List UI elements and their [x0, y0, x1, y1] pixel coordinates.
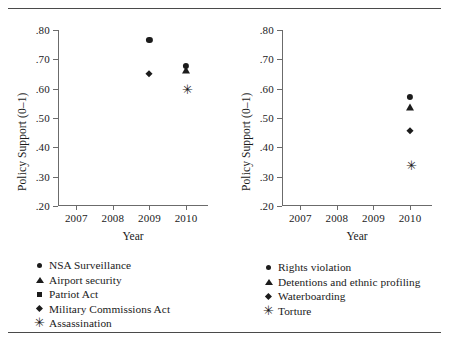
legend-item-left-2[interactable]: Patriot Act: [33, 287, 170, 302]
y-tick-left: [53, 30, 58, 31]
triangle-marker-icon: [262, 279, 275, 285]
x-tick-right: [337, 206, 338, 210]
legend-item-right-1[interactable]: Detentions and ethnic profiling: [262, 275, 420, 290]
y-axis-title-left: Policy Support (0–1): [16, 93, 28, 191]
y-tick-label-left: .50: [36, 112, 50, 124]
y-tick-label-left: .80: [36, 24, 50, 36]
x-tick-label-right: 2009: [362, 212, 385, 224]
y-tick-left: [53, 89, 58, 90]
data-point-asterisk-marker: ✳: [406, 161, 415, 168]
x-tick-label-right: 2007: [289, 212, 312, 224]
legend-right: Rights violationDetentions and ethnic pr…: [262, 260, 420, 318]
y-tick-left: [53, 118, 58, 119]
figure-title-clipped: [8, 0, 441, 7]
x-axis-title-left: Year: [122, 230, 143, 242]
legend-label: Patriot Act: [49, 288, 98, 300]
x-tick-right: [373, 206, 374, 210]
y-tick-label-right: .20: [260, 200, 274, 212]
x-tick-right: [410, 206, 411, 210]
y-tick-label-right: .30: [260, 171, 274, 183]
x-tick-left: [186, 206, 187, 210]
top-rule: [8, 8, 441, 9]
data-point-diamond-marker: [147, 71, 152, 76]
data-point-circle-marker: [146, 37, 152, 43]
x-tick-label-right: 2008: [325, 212, 348, 224]
y-tick-left: [53, 177, 58, 178]
x-tick-left: [76, 206, 77, 210]
triangle-marker-icon: [33, 277, 46, 283]
asterisk-marker-icon: ✳: [33, 318, 46, 328]
legend-item-right-3[interactable]: ✳Torture: [262, 304, 420, 319]
square-marker-icon: [33, 292, 46, 297]
legend-label: Rights violation: [278, 261, 351, 273]
plot-area-right: Year .20.30.40.50.60.70.8020072008200920…: [282, 30, 432, 206]
y-tick-right: [277, 177, 282, 178]
circle-marker-icon: [262, 265, 275, 270]
legend-label: Torture: [278, 305, 311, 317]
x-tick-label-right: 2010: [399, 212, 422, 224]
legend-label: Airport security: [49, 274, 122, 286]
legend-label: Assassination: [49, 317, 112, 329]
y-tick-label-left: .30: [36, 171, 50, 183]
x-axis-title-right: Year: [346, 230, 367, 242]
data-point-circle-marker: [407, 94, 413, 100]
legend-label: Military Commissions Act: [49, 303, 170, 315]
x-tick-right: [300, 206, 301, 210]
y-tick-label-right: .80: [260, 24, 274, 36]
y-tick-label-left: .40: [36, 141, 50, 153]
y-tick-label-right: .60: [260, 83, 274, 95]
legend-label: Detentions and ethnic profiling: [278, 276, 420, 288]
legend-label: Waterboarding: [278, 290, 346, 302]
y-tick-label-right: .40: [260, 141, 274, 153]
legend-label: NSA Surveillance: [49, 259, 131, 271]
panel-left: Policy Support (0–1) Year .20.30.40.50.6…: [0, 16, 228, 266]
x-tick-label-left: 2010: [175, 212, 198, 224]
diamond-marker-icon: [33, 306, 46, 311]
y-tick-right: [277, 59, 282, 60]
y-tick-label-right: .70: [260, 53, 274, 65]
circle-marker-icon: [33, 263, 46, 268]
y-tick-right: [277, 89, 282, 90]
data-point-diamond-marker: [407, 128, 412, 133]
y-tick-left: [53, 147, 58, 148]
figure-root: Policy Support (0–1) Year .20.30.40.50.6…: [0, 0, 449, 343]
y-tick-right: [277, 147, 282, 148]
bottom-rule: [8, 332, 441, 333]
data-point-asterisk-marker: ✳: [182, 85, 191, 92]
y-tick-right: [277, 30, 282, 31]
x-tick-left: [113, 206, 114, 210]
y-tick-label-right: .50: [260, 112, 274, 124]
plot-area-left: Year .20.30.40.50.60.70.8020072008200920…: [58, 30, 208, 206]
y-tick-label-left: .70: [36, 53, 50, 65]
x-tick-label-left: 2007: [65, 212, 88, 224]
y-tick-right: [277, 206, 282, 207]
y-tick-left: [53, 206, 58, 207]
data-point-triangle-marker: [406, 103, 414, 110]
legend-item-right-2[interactable]: Waterboarding: [262, 289, 420, 304]
y-tick-right: [277, 118, 282, 119]
x-tick-label-left: 2009: [138, 212, 161, 224]
y-tick-left: [53, 59, 58, 60]
panel-right: Policy Support (0–1) Year .20.30.40.50.6…: [228, 16, 449, 266]
y-tick-label-left: .20: [36, 200, 50, 212]
legend-item-left-3[interactable]: Military Commissions Act: [33, 302, 170, 317]
legend-item-right-0[interactable]: Rights violation: [262, 260, 420, 275]
y-axis-title-right: Policy Support (0–1): [240, 93, 252, 191]
x-tick-left: [149, 206, 150, 210]
x-tick-label-left: 2008: [101, 212, 124, 224]
y-axis-line-left: [58, 30, 59, 206]
legend-left: NSA SurveillanceAirport securityPatriot …: [33, 258, 170, 331]
legend-item-left-0[interactable]: NSA Surveillance: [33, 258, 170, 273]
legend-item-left-4[interactable]: ✳Assassination: [33, 316, 170, 331]
data-point-circle-marker: [183, 63, 189, 69]
y-axis-line-right: [282, 30, 283, 206]
asterisk-marker-icon: ✳: [262, 306, 275, 316]
legend-item-left-1[interactable]: Airport security: [33, 273, 170, 288]
y-tick-label-left: .60: [36, 83, 50, 95]
diamond-marker-icon: [262, 294, 275, 299]
